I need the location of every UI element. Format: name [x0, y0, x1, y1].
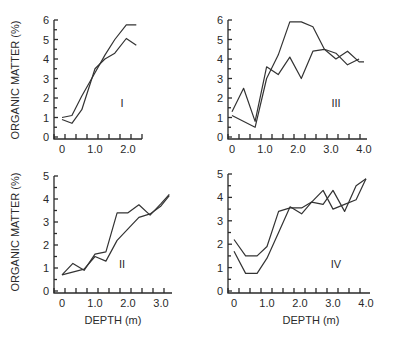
y-tick-label: 0: [217, 285, 223, 297]
x-tick-label: 0: [231, 297, 237, 309]
panel-IV: 01234501.02.03.04.0IV: [217, 168, 374, 309]
series-line: [234, 179, 366, 274]
y-tick-label: 2: [217, 92, 223, 104]
y-tick-label: 5: [43, 34, 49, 46]
y-tick-label: 1: [217, 112, 223, 124]
x-tick-label: 3.0: [153, 297, 168, 309]
y-tick-label: 2: [43, 92, 49, 104]
panel-label: III: [331, 97, 340, 109]
panel-I: 012345601.02.0I: [43, 14, 142, 155]
x-tick-label: 0: [59, 297, 65, 309]
x-tick-label: 3.0: [323, 143, 338, 155]
panel-III: 012345601.02.03.04.0III: [217, 14, 372, 155]
y-tick-label: 3: [43, 73, 49, 85]
series-line: [234, 179, 366, 256]
y-tick-label: 5: [217, 34, 223, 46]
y-tick-label: 4: [217, 191, 223, 203]
axis-lines: [228, 174, 370, 293]
x-tick-label: 1.0: [87, 143, 102, 155]
y-tick-label: 3: [43, 216, 49, 228]
x-axis-label-right: DEPTH (m): [283, 314, 340, 326]
x-tick-label: 0: [229, 143, 235, 155]
series-line: [62, 25, 136, 118]
y-tick-label: 3: [217, 73, 223, 85]
y-tick-label: 6: [217, 14, 223, 26]
y-tick-label: 4: [217, 53, 223, 65]
y-tick-label: 2: [43, 239, 49, 251]
panel-label: IV: [331, 258, 342, 270]
x-tick-label: 2.0: [292, 297, 307, 309]
y-tick-label: 0: [43, 131, 49, 143]
y-axis-label-bottom: ORGANIC MATTER (%): [9, 173, 21, 292]
y-tick-label: 5: [217, 168, 223, 180]
panel-II: 01234501.02.03.0II: [43, 170, 172, 309]
chart-canvas: ORGANIC MATTER (%) ORGANIC MATTER (%) DE…: [0, 0, 395, 338]
x-tick-label: 1.0: [257, 143, 272, 155]
y-tick-label: 3: [217, 215, 223, 227]
panel-label: I: [120, 97, 123, 109]
x-axis-label-left: DEPTH (m): [85, 314, 142, 326]
y-tick-label: 1: [217, 262, 223, 274]
series-line: [62, 196, 169, 275]
y-tick-label: 4: [43, 53, 49, 65]
x-tick-label: 1.0: [87, 297, 102, 309]
y-tick-label: 5: [43, 170, 49, 182]
y-axis-label-top: ORGANIC MATTER (%): [9, 21, 21, 140]
x-tick-label: 2.0: [290, 143, 305, 155]
y-tick-label: 6: [43, 14, 49, 26]
y-tick-label: 1: [43, 262, 49, 274]
x-tick-label: 1.0: [259, 297, 274, 309]
x-tick-label: 4.0: [358, 297, 373, 309]
series-line: [62, 39, 136, 124]
y-tick-label: 2: [217, 238, 223, 250]
axis-lines: [228, 20, 367, 139]
figure: ORGANIC MATTER (%) ORGANIC MATTER (%) DE…: [0, 0, 395, 338]
x-tick-label: 2.0: [120, 143, 135, 155]
axis-lines: [54, 176, 172, 293]
y-tick-label: 0: [217, 131, 223, 143]
x-tick-label: 0: [59, 143, 65, 155]
panels: 012345601.02.0I012345601.02.03.04.0III01…: [43, 14, 374, 309]
y-tick-label: 1: [43, 112, 49, 124]
y-tick-label: 0: [43, 285, 49, 297]
x-tick-label: 2.0: [120, 297, 135, 309]
x-tick-label: 3.0: [325, 297, 340, 309]
panel-label: II: [119, 258, 125, 270]
series-line: [232, 49, 364, 121]
y-tick-label: 4: [43, 193, 49, 205]
x-tick-label: 4.0: [356, 143, 371, 155]
series-line: [62, 194, 169, 275]
